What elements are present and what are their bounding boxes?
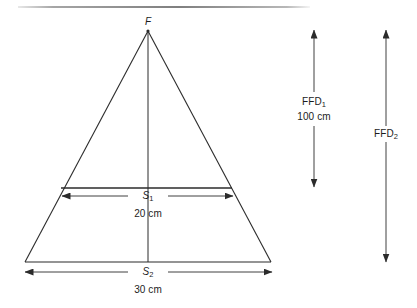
triangle-left-edge: [25, 31, 148, 262]
field-size-s2-label: S2: [143, 266, 154, 278]
ffd1-subscript: 1: [322, 100, 326, 109]
field-size-s2-symbol: S: [143, 266, 150, 277]
field-size-s1-symbol: S: [143, 190, 150, 201]
focus-label: F: [145, 16, 151, 27]
field-size-s1-subscript: 1: [149, 194, 153, 203]
ffd2-label: FFD2: [374, 128, 398, 140]
ffd2-symbol: FFD: [374, 128, 394, 139]
focus-point-marker: [146, 29, 149, 32]
triangle-right-edge: [148, 31, 271, 262]
figure-canvas: F S1 20 cm S2 30 cm FFD1 100 cm FFD2: [0, 0, 417, 308]
ffd1-value: 100 cm: [297, 111, 330, 122]
beam-divergence-diagram: [0, 0, 417, 308]
field-size-s2-value: 30 cm: [134, 284, 162, 295]
field-size-s1-value: 20 cm: [134, 208, 162, 219]
field-size-s1-label: S1: [143, 190, 154, 202]
ffd1-symbol: FFD: [302, 96, 322, 107]
field-size-s2-subscript: 2: [149, 270, 153, 279]
ffd1-label: FFD1: [302, 96, 326, 108]
ffd2-subscript: 2: [394, 132, 398, 141]
